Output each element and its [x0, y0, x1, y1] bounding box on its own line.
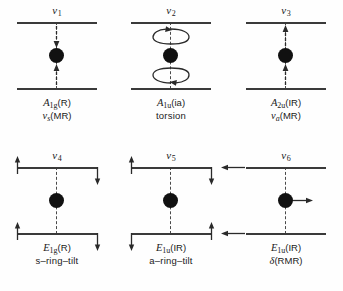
central-metal-atom: [278, 48, 293, 63]
arrow-up-bottom-left: [13, 222, 22, 240]
ring-line-bottom: [131, 233, 211, 235]
arrow-right-central-atom: [291, 196, 315, 205]
ring-line-top: [246, 167, 326, 169]
mode-description-nu4: s–ring–tilt: [0, 254, 114, 267]
mode-panel-nu3: ν3 A2u(IR) νa(MR): [229, 0, 343, 145]
mode-panel-nu1: ν1 A1g(R) νs(MR): [0, 0, 114, 145]
mode-panel-nu2: ν2 A1u(ia) torsion: [114, 0, 228, 145]
mode-description-nu5: a–ring–tilt: [114, 254, 228, 267]
rotation-arrow-top: [150, 26, 192, 46]
ring-line-top: [131, 167, 211, 169]
ring-line-top: [17, 22, 97, 24]
mode-description-nu2: torsion: [114, 109, 228, 122]
arrow-up-bottom: [281, 64, 290, 86]
central-metal-atom: [49, 48, 64, 63]
central-metal-atom: [163, 48, 178, 63]
mode-title-nu1: ν1: [0, 4, 114, 18]
arrow-up-top: [281, 25, 290, 47]
ring-line-top: [17, 167, 97, 169]
ring-line-bottom: [246, 88, 326, 90]
mode-diagram-nu4: [0, 165, 114, 237]
rotation-arrow-bottom: [150, 66, 192, 86]
arrow-down-top-right: [93, 167, 102, 185]
mode-title-nu2: ν2: [114, 4, 228, 18]
mode-diagram-nu3: [229, 20, 343, 92]
ring-line-top: [131, 22, 211, 24]
mode-diagram-nu6: [229, 165, 343, 237]
ring-line-bottom: [17, 233, 97, 235]
arrow-up-top-left: [13, 156, 22, 174]
central-metal-atom: [49, 193, 64, 208]
arrow-down-top-right: [207, 167, 216, 185]
mode-panel-nu6: ν6 E1u(IR) δ(RMR): [229, 145, 343, 290]
mode-description-nu6: δ(RMR): [229, 254, 343, 267]
arrow-left-bottom-ring: [221, 229, 245, 238]
mode-description-nu1: νs(MR): [0, 109, 114, 125]
ring-line-bottom: [17, 88, 97, 90]
mode-title-nu6: ν6: [229, 149, 343, 163]
mode-panel-nu4: ν4 E1g(R) s–ring–tilt: [0, 145, 114, 290]
mode-diagram-nu1: [0, 20, 114, 92]
mode-diagram-nu2: [114, 20, 228, 92]
arrow-up-bottom-right: [207, 222, 216, 240]
mode-panel-nu5: ν5 E1u(IR) a–ring–tilt: [114, 145, 228, 290]
mode-title-nu3: ν3: [229, 4, 343, 18]
arrow-left-top-ring: [221, 163, 245, 172]
mode-description-nu3: νa(MR): [229, 109, 343, 125]
ring-line-bottom: [131, 88, 211, 90]
vibrational-modes-figure: ν1 A1g(R) νs(MR) ν2: [0, 0, 343, 291]
arrow-up-bottom: [52, 64, 61, 86]
ring-line-bottom: [246, 233, 326, 235]
mode-diagram-nu5: [114, 165, 228, 237]
ring-line-top: [246, 22, 326, 24]
arrow-up-top-left: [127, 156, 136, 174]
central-metal-atom: [278, 193, 293, 208]
arrow-down-top: [52, 26, 61, 48]
central-metal-atom: [163, 193, 178, 208]
